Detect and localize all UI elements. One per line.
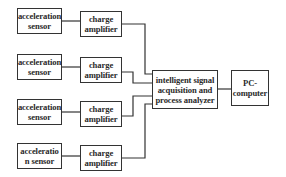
sensor-label: acceleration sensor [18, 11, 61, 31]
amplifier-label: charge amplifier [85, 14, 118, 34]
wire-amp4-analyzer [122, 104, 152, 158]
amplifier-label: charge amplifier [85, 60, 118, 80]
sensor-box-2: acceleration sensor [17, 54, 62, 80]
pc-computer-label: PC- computer [233, 78, 268, 98]
wire-amp3-analyzer [122, 96, 152, 116]
sensor-label: acceleration sensor [18, 102, 61, 122]
sensor-box-1: acceleration sensor [17, 8, 62, 34]
sensor-box-4: acceleratio n sensor [17, 143, 62, 169]
sensor-label: acceleration sensor [18, 57, 61, 77]
amplifier-label: charge amplifier [85, 104, 118, 124]
wire-amp1-analyzer [122, 24, 152, 74]
sensor-box-3: acceleration sensor [17, 99, 62, 125]
amplifier-box-1: charge amplifier [80, 11, 122, 37]
analyzer-box: intelligent signal acquisition and proce… [152, 70, 218, 109]
amplifier-box-4: charge amplifier [80, 145, 122, 171]
analyzer-label: intelligent signal acquisition and proce… [155, 75, 214, 105]
amplifier-label: charge amplifier [85, 148, 118, 168]
amplifier-box-3: charge amplifier [80, 101, 122, 127]
amplifier-box-2: charge amplifier [80, 57, 122, 83]
pc-computer-box: PC- computer [231, 70, 269, 106]
sensor-label: acceleratio n sensor [20, 146, 59, 166]
